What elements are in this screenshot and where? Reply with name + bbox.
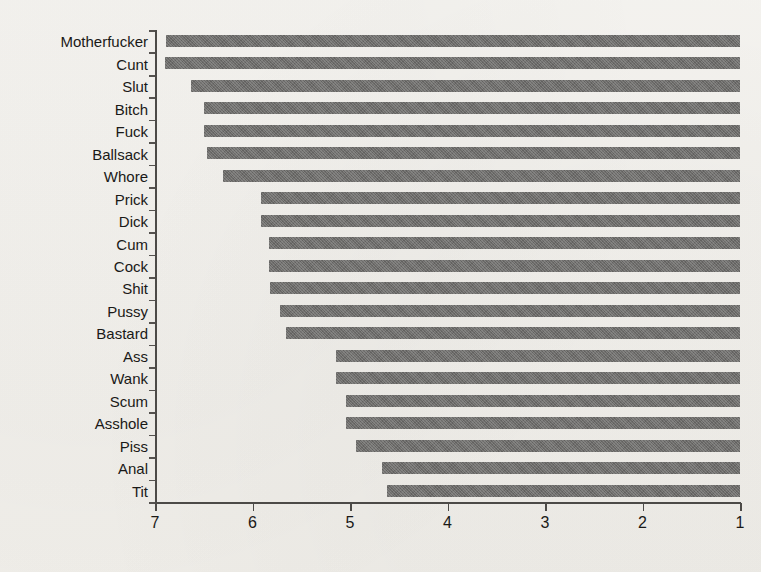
- bar-row: [155, 412, 740, 434]
- bar: [261, 215, 740, 227]
- plot-area: [155, 30, 740, 502]
- y-axis-label-whore: Whore: [0, 169, 148, 184]
- y-axis-tick: [149, 322, 155, 324]
- x-axis-tick: [253, 503, 255, 511]
- y-axis-label-piss: Piss: [0, 439, 148, 454]
- bar-row: [155, 322, 740, 344]
- y-axis-tick: [149, 277, 155, 279]
- bar: [269, 237, 740, 249]
- y-axis-tick: [149, 255, 155, 257]
- bar-row: [155, 187, 740, 209]
- bar-chart: MotherfuckerCuntSlutBitchFuckBallsackWho…: [0, 0, 761, 572]
- x-axis-tick-label-1: 1: [720, 514, 760, 532]
- bar-row: [155, 30, 740, 52]
- x-axis-tick-label-5: 5: [330, 514, 370, 532]
- bar: [270, 282, 740, 294]
- y-axis-tick: [149, 367, 155, 369]
- bar-row: [155, 390, 740, 412]
- y-axis-label-pussy: Pussy: [0, 304, 148, 319]
- y-axis-line: [155, 30, 157, 503]
- y-axis-label-fuck: Fuck: [0, 124, 148, 139]
- x-axis-tick-label-7: 7: [135, 514, 175, 532]
- x-axis-tick: [740, 503, 742, 511]
- bar: [280, 305, 740, 317]
- bar: [346, 395, 740, 407]
- bar-row: [155, 232, 740, 254]
- bar-row: [155, 142, 740, 164]
- y-axis-tick: [149, 52, 155, 54]
- bar: [387, 485, 740, 497]
- bar: [261, 192, 740, 204]
- bar: [204, 102, 740, 114]
- bar: [191, 80, 740, 92]
- y-axis-label-cock: Cock: [0, 259, 148, 274]
- x-axis-tick-label-4: 4: [428, 514, 468, 532]
- y-axis-label-dick: Dick: [0, 214, 148, 229]
- y-axis-label-cum: Cum: [0, 237, 148, 252]
- x-axis-tick-label-6: 6: [233, 514, 273, 532]
- y-axis-label-cunt: Cunt: [0, 57, 148, 72]
- y-axis-label-ass: Ass: [0, 349, 148, 364]
- bar-row: [155, 300, 740, 322]
- bar: [204, 125, 740, 137]
- bar-row: [155, 457, 740, 479]
- y-axis-tick: [149, 412, 155, 414]
- x-axis-tick-label-3: 3: [525, 514, 565, 532]
- y-axis-label-shit: Shit: [0, 281, 148, 296]
- bar: [356, 440, 740, 452]
- bar: [286, 327, 740, 339]
- y-axis-category-labels: MotherfuckerCuntSlutBitchFuckBallsackWho…: [0, 30, 148, 502]
- y-axis-tick: [149, 75, 155, 77]
- bar-row: [155, 120, 740, 142]
- x-axis-tick: [643, 503, 645, 511]
- x-axis-tick: [545, 503, 547, 511]
- bar-row: [155, 255, 740, 277]
- y-axis-tick: [149, 480, 155, 482]
- y-axis-tick: [149, 187, 155, 189]
- bar-row: [155, 435, 740, 457]
- y-axis-label-slut: Slut: [0, 79, 148, 94]
- bar-row: [155, 165, 740, 187]
- bar-row: [155, 345, 740, 367]
- y-axis-label-anal: Anal: [0, 461, 148, 476]
- bar: [166, 35, 740, 47]
- y-axis-label-ballsack: Ballsack: [0, 147, 148, 162]
- y-axis-tick: [149, 142, 155, 144]
- x-axis-tick: [350, 503, 352, 511]
- y-axis-label-tit: Tit: [0, 484, 148, 499]
- y-axis-tick: [149, 457, 155, 459]
- y-axis-label-asshole: Asshole: [0, 416, 148, 431]
- bar: [223, 170, 740, 182]
- y-axis-tick: [149, 232, 155, 234]
- bar-row: [155, 480, 740, 502]
- x-axis-tick-label-2: 2: [623, 514, 663, 532]
- y-axis-tick: [149, 97, 155, 99]
- y-axis-label-wank: Wank: [0, 371, 148, 386]
- y-axis-label-prick: Prick: [0, 192, 148, 207]
- bar-row: [155, 277, 740, 299]
- y-axis-tick: [149, 165, 155, 167]
- bar-row: [155, 97, 740, 119]
- bar: [165, 57, 740, 69]
- y-axis-label-motherfucker: Motherfucker: [0, 34, 148, 49]
- bar: [207, 147, 740, 159]
- bar-row: [155, 52, 740, 74]
- bar-row: [155, 210, 740, 232]
- bar: [382, 462, 740, 474]
- y-axis-tick: [149, 435, 155, 437]
- y-axis-tick: [149, 120, 155, 122]
- y-axis-tick: [149, 345, 155, 347]
- y-axis-label-scum: Scum: [0, 394, 148, 409]
- y-axis-label-bitch: Bitch: [0, 102, 148, 117]
- y-axis-label-bastard: Bastard: [0, 326, 148, 341]
- y-axis-tick: [149, 390, 155, 392]
- y-axis-tick: [149, 210, 155, 212]
- bar: [336, 350, 740, 362]
- x-axis-tick: [448, 503, 450, 511]
- y-axis-tick: [149, 300, 155, 302]
- bar-row: [155, 367, 740, 389]
- y-axis-tick: [149, 30, 155, 32]
- bar-row: [155, 75, 740, 97]
- bar: [269, 260, 740, 272]
- bar: [346, 417, 740, 429]
